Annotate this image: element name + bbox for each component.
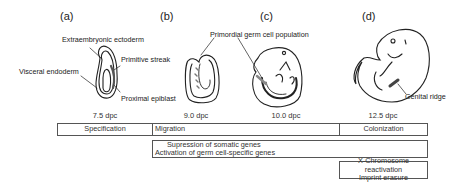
stage-label-a: 7.5 dpc <box>93 111 118 120</box>
phase-specification: Specification <box>57 123 153 136</box>
embryo-b-drawing <box>185 38 219 103</box>
stage-label-b: 9.0 dpc <box>184 111 209 120</box>
panel-label-b: (b) <box>160 10 173 22</box>
phase-specification-label: Specification <box>84 125 125 134</box>
panel-label-c: (c) <box>260 10 273 22</box>
label-genital-ridge: Genital ridge <box>405 92 446 101</box>
panel-label-a: (a) <box>60 10 73 22</box>
label-primitive-streak: Primitive streak <box>121 55 170 64</box>
label-proximal-epiblast: Proximal epiblast <box>121 94 176 103</box>
phase-migration-label: Migration <box>155 125 185 134</box>
stage-label-d: 12.5 dpc <box>369 111 398 120</box>
epigenetic-line1: X-Chromosome reactivation <box>340 157 427 174</box>
label-primordial-germ-cell-population: Primordial germ cell population <box>210 30 309 39</box>
phase-colonization-label: Colonization <box>363 125 403 134</box>
phase-migration: Migration <box>152 123 340 136</box>
stage-label-c: 10.0 dpc <box>272 111 301 120</box>
epigenetic-box: X-Chromosome reactivation Imprint erasur… <box>339 161 428 179</box>
phase-colonization: Colonization <box>339 123 428 136</box>
label-visceral-endoderm: Visceral endoderm <box>19 67 79 76</box>
embryo-c-drawing <box>238 38 302 107</box>
label-extraembryonic-ectoderm: Extraembryonic ectoderm <box>62 35 144 44</box>
gene-program-line2: Activation of germ cell-specific genes <box>155 149 275 158</box>
embryo-a-drawing <box>81 46 120 98</box>
panel-label-d: (d) <box>362 10 375 22</box>
epigenetic-line2: Imprint erasure <box>359 174 408 183</box>
